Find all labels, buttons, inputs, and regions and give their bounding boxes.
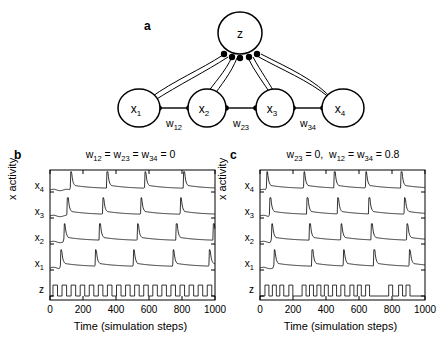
trace-z [50,285,215,296]
weight-label-w12: w12 [165,117,182,132]
ytick-label: x1 [230,258,254,272]
trace-z [260,285,425,296]
panel-c-yaxis-title: x activity [216,158,228,200]
ytick-label: x3 [20,206,44,220]
node-x2 [188,89,226,127]
panel-c-title: w23 = 0, w12 = w34 = 0.8 [258,148,428,163]
xtick-label: 1000 [405,304,440,315]
xtick-label: 1000 [195,304,235,315]
node-x1 [118,89,160,127]
panel-label-c: c [230,148,237,162]
weight-label-w34: w34 [299,117,316,132]
figure: a [0,0,440,337]
x-synapse-circles [146,94,335,102]
ytick-label: x1 [20,258,44,272]
trace-x3 [260,198,425,217]
ytick-label: x2 [20,232,44,246]
plot-frame [50,170,215,300]
trace-x2 [50,224,215,243]
panel-a-network-diagram: a [0,0,440,140]
ytick-label: x4 [20,180,44,194]
xaxis-title: Time (simulation steps) [248,320,433,332]
panel-label-a: a [144,19,151,33]
panel-b-yaxis-title: x activity [6,158,18,200]
node-label-z: z [237,27,243,41]
trace-x2 [260,224,425,243]
trace-x3 [50,198,215,217]
xaxis-title: Time (simulation steps) [38,320,223,332]
plot-frame [260,170,425,300]
panel-c-plot [258,168,428,303]
trace-x4 [260,172,425,190]
trace-x1 [260,250,425,269]
network-diagram-svg: z x1 x2 x3 x4 w12 w23 w34 [0,0,440,140]
node-x3 [256,89,294,127]
panel-b-title: w12 = w23 = w34 = 0 [48,148,213,163]
trace-x4 [50,172,215,191]
ytick-label: z [20,284,44,295]
panel-b-plot [48,168,218,303]
trace-x1 [50,250,215,269]
weight-label-w23: w23 [232,117,249,132]
ytick-label: x4 [230,180,254,194]
ytick-label: x2 [230,232,254,246]
node-x4 [322,89,364,127]
ytick-label: z [230,284,254,295]
ytick-label: x3 [230,206,254,220]
